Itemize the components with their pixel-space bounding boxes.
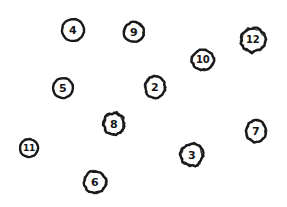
circle-node-6[interactable]: 6	[82, 169, 107, 194]
sketch-canvas: 49121052871136	[0, 0, 287, 207]
circle-node-7[interactable]: 7	[244, 118, 267, 143]
circle-node-2[interactable]: 2	[144, 75, 167, 100]
circle-node-label: 5	[59, 83, 66, 94]
circle-node-9[interactable]: 9	[122, 20, 145, 43]
circle-node-label: 8	[110, 119, 117, 130]
circle-node-5[interactable]: 5	[51, 76, 74, 99]
circle-node-label: 6	[91, 177, 98, 188]
circle-node-8[interactable]: 8	[102, 111, 126, 137]
circle-node-label: 11	[23, 144, 35, 153]
circle-node-4[interactable]: 4	[60, 17, 86, 43]
circle-node-label: 12	[246, 35, 259, 45]
circle-node-11[interactable]: 11	[19, 138, 40, 159]
circle-node-label: 3	[188, 149, 195, 160]
circle-node-label: 9	[130, 26, 137, 37]
circle-node-10[interactable]: 10	[190, 48, 215, 72]
circle-node-label: 7	[252, 125, 259, 136]
circle-node-3[interactable]: 3	[179, 142, 205, 168]
circle-node-label: 2	[151, 81, 158, 92]
circle-node-label: 10	[196, 55, 209, 65]
circle-node-12[interactable]: 12	[240, 27, 267, 54]
circle-node-label: 4	[69, 25, 76, 36]
